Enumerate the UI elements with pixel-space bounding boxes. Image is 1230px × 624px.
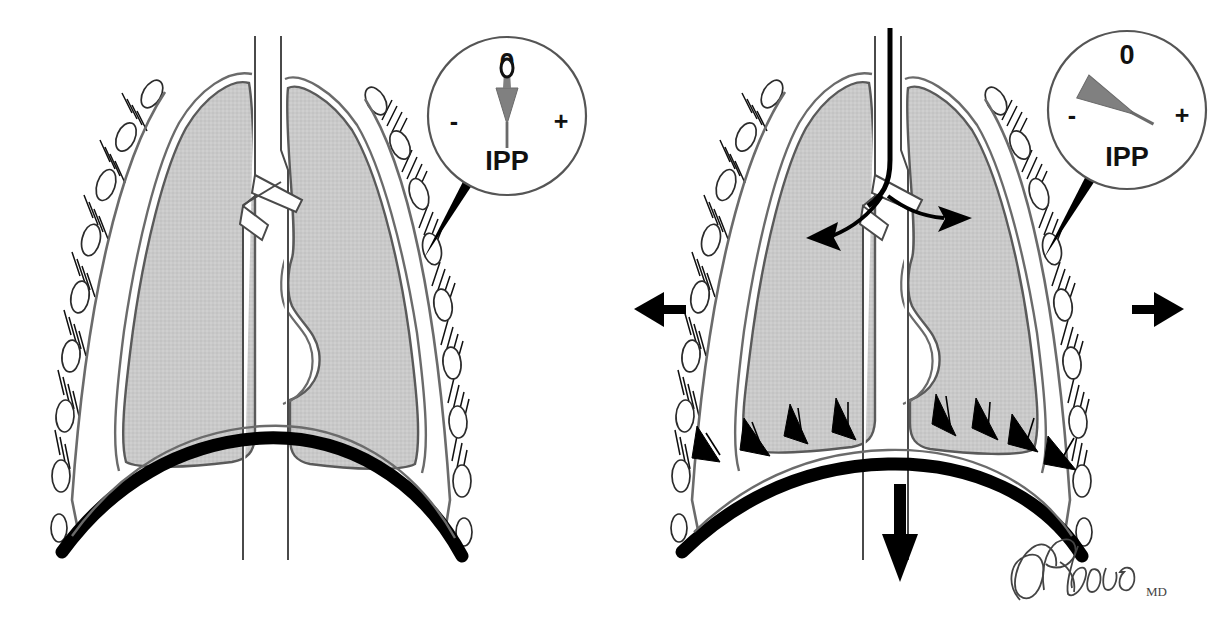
gauge-zero-mark: 0 <box>1119 40 1134 70</box>
gauge-plus-mark: + <box>1175 101 1190 129</box>
gauge-plus-mark: + <box>554 107 569 135</box>
gauge-minus-mark: - <box>450 107 458 135</box>
gauge-ipp-label: IPP <box>485 146 529 176</box>
signature-credential: MD <box>1146 584 1167 599</box>
figure-canvas: 0 - + IPP <box>0 0 1230 624</box>
gauge-minus-mark: - <box>1068 101 1076 129</box>
gauge-ipp-label: IPP <box>1105 142 1149 172</box>
respiratory-mechanics-diagram: 0 - + IPP <box>0 0 1230 624</box>
